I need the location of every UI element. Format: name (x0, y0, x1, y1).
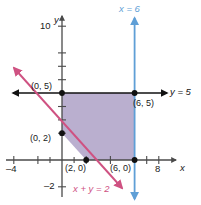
y-tick-label-neg2: –2 (44, 181, 55, 191)
x-axis-label: x (180, 163, 185, 173)
equation-label-x-plus-y-equals-2: x + y = 2 (73, 184, 109, 194)
equation-label-y-equals-5: y = 5 (170, 87, 191, 97)
point-6-0-dot (132, 157, 138, 163)
x-tick-label-neg4: –4 (6, 164, 17, 174)
equation-label-x-equals-6: x = 6 (119, 4, 140, 14)
point-6-5-dot (132, 90, 138, 96)
point-label-0-5: (0, 5) (31, 82, 52, 91)
x-tick-label-8: 8 (155, 164, 160, 174)
point-label-6-5: (6, 5) (133, 99, 154, 108)
point-label-2-0: (2, 0) (65, 164, 86, 173)
point-label-0-2: (0, 2) (30, 134, 51, 143)
point-0-5-dot (59, 90, 65, 96)
point-label-6-0: (6, 0) (110, 164, 131, 173)
shaded-feasible-region (62, 93, 135, 160)
y-axis-label: y (54, 15, 59, 25)
coordinate-plane-svg (0, 0, 201, 205)
y-tick-label-10: 10 (40, 21, 51, 31)
point-0-2-dot (59, 130, 65, 136)
graph-figure: y x –4 8 10 –2 (0, 5) (6, 5) (0, 2) (2, … (0, 0, 201, 205)
